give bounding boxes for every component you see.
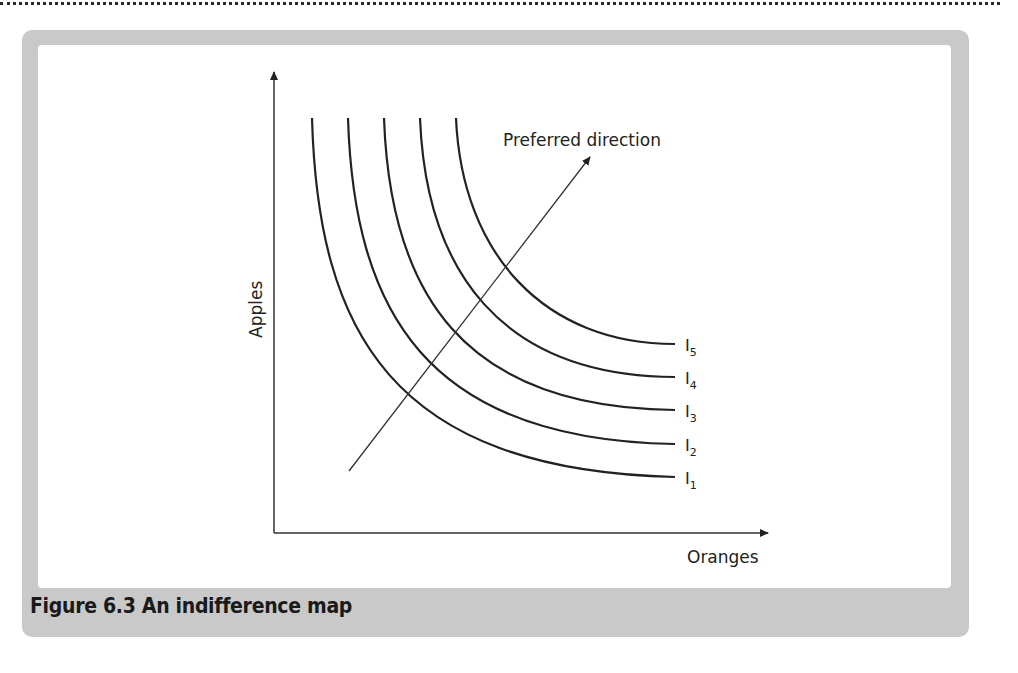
y-axis-label: Apples (246, 281, 266, 338)
indifference-curve-i1 (312, 118, 675, 477)
curve-label-i2: I2 (685, 436, 697, 459)
x-axis-label: Oranges (687, 547, 759, 567)
preferred-direction-label: Preferred direction (503, 130, 661, 150)
indifference-curve-i3 (384, 118, 675, 410)
preferred-direction-arrow (349, 157, 590, 471)
indifference-curve-i4 (420, 118, 675, 377)
curve-label-i5: I5 (685, 336, 697, 359)
indifference-curve-i2 (348, 118, 675, 444)
curve-label-i3: I3 (685, 402, 697, 425)
curve-label-i1: I1 (685, 469, 697, 492)
figure-caption: Figure 6.3 An indifference map (30, 594, 352, 618)
curve-label-i4: I4 (685, 369, 697, 392)
indifference-map-diagram: Preferred direction Apples Oranges I5 I4… (0, 0, 1018, 673)
